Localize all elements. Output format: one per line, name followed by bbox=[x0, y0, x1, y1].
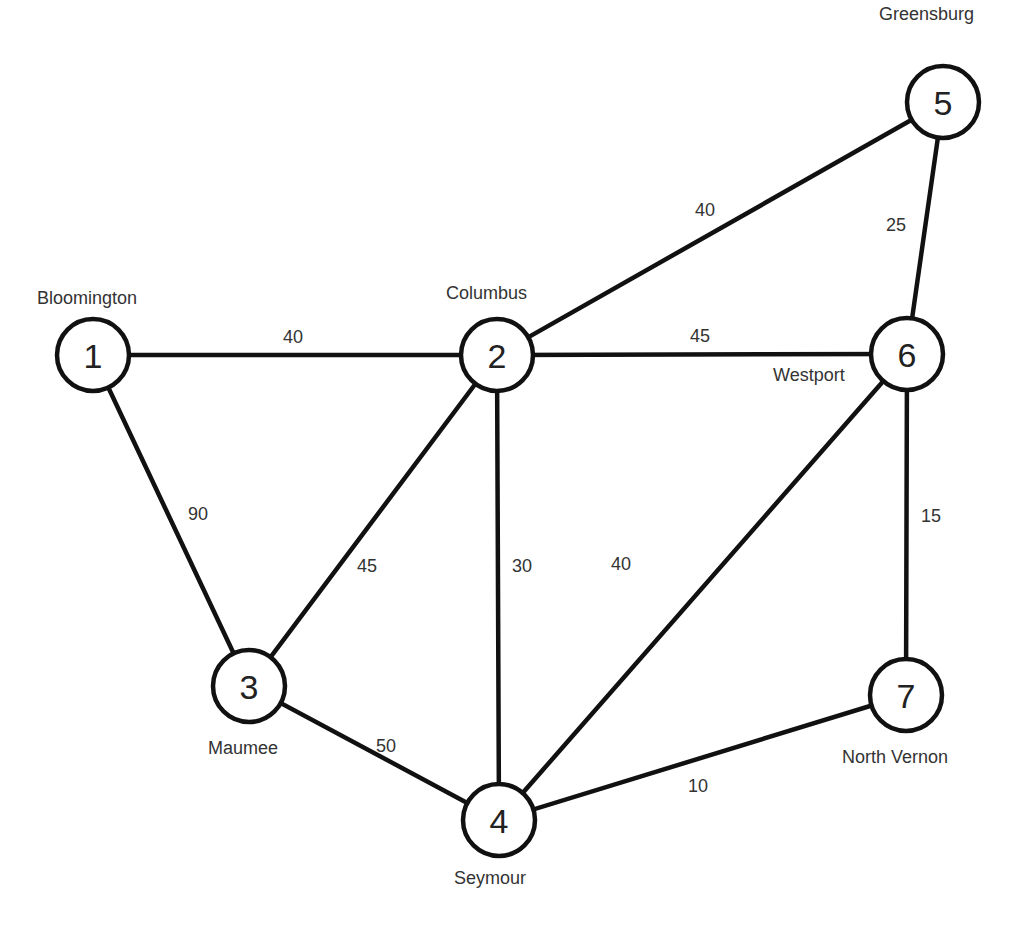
weight-4-7: 10 bbox=[688, 776, 708, 796]
node-5-number: 5 bbox=[934, 84, 953, 122]
city-label-maumee: Maumee bbox=[208, 738, 278, 758]
weight-1-2: 40 bbox=[283, 327, 303, 347]
edge-2-4 bbox=[497, 355, 499, 820]
weight-2-5: 40 bbox=[695, 200, 715, 220]
weight-4-6: 40 bbox=[611, 554, 631, 574]
weight-3-4: 50 bbox=[376, 736, 396, 756]
city-label-bloomington: Bloomington bbox=[37, 288, 137, 308]
node-1-number: 1 bbox=[84, 337, 103, 375]
node-4: 4 bbox=[463, 784, 535, 856]
weight-1-3: 90 bbox=[188, 504, 208, 524]
node-7-number: 7 bbox=[897, 677, 916, 715]
node-7: 7 bbox=[870, 659, 942, 731]
weight-6-7: 15 bbox=[921, 506, 941, 526]
node-4-number: 4 bbox=[490, 802, 509, 840]
city-label-westport: Westport bbox=[773, 365, 845, 385]
node-3: 3 bbox=[213, 650, 285, 722]
edge-6-7 bbox=[906, 354, 907, 695]
nodes: 1 2 3 4 5 6 7 bbox=[57, 66, 979, 856]
edges bbox=[93, 102, 943, 820]
node-5: 5 bbox=[907, 66, 979, 138]
city-labels: Bloomington Columbus Maumee Seymour Gree… bbox=[37, 4, 974, 888]
edge-2-6 bbox=[497, 354, 907, 355]
node-6: 6 bbox=[871, 318, 943, 390]
node-3-number: 3 bbox=[240, 668, 259, 706]
weight-2-6: 45 bbox=[690, 326, 710, 346]
node-6-number: 6 bbox=[898, 336, 917, 374]
network-diagram: 40 90 45 30 40 45 50 40 10 25 15 1 2 3 4… bbox=[0, 0, 1031, 929]
city-label-columbus: Columbus bbox=[446, 283, 527, 303]
edge-weights: 40 90 45 30 40 45 50 40 10 25 15 bbox=[188, 200, 941, 796]
node-2-number: 2 bbox=[488, 337, 507, 375]
edge-1-3 bbox=[93, 355, 249, 686]
city-label-greensburg: Greensburg bbox=[879, 4, 974, 24]
edge-3-4 bbox=[249, 686, 499, 820]
city-label-seymour: Seymour bbox=[454, 868, 526, 888]
edge-2-5 bbox=[497, 102, 943, 355]
edge-2-3 bbox=[249, 355, 497, 686]
weight-2-4: 30 bbox=[512, 556, 532, 576]
node-2: 2 bbox=[461, 319, 533, 391]
node-1: 1 bbox=[57, 319, 129, 391]
weight-2-3: 45 bbox=[357, 556, 377, 576]
weight-5-6: 25 bbox=[886, 215, 906, 235]
city-label-north-vernon: North Vernon bbox=[842, 747, 948, 767]
